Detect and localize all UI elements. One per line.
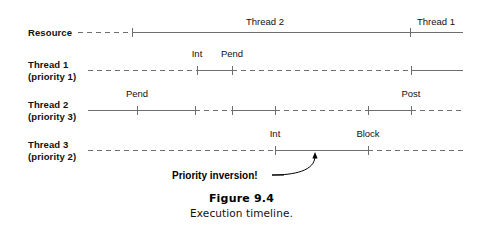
event-label-thread-3-int: Int <box>270 128 281 139</box>
row-label-priority: (priority 2) <box>28 151 76 163</box>
figure-caption: Figure 9.4 Execution timeline. <box>0 192 483 220</box>
row-label-thread-2: Thread 2(priority 3) <box>28 99 76 122</box>
segment-label-resource-0: Thread 2 <box>246 16 284 27</box>
row-label-name: Thread 3 <box>28 139 68 150</box>
timeline-row-thread-2 <box>88 106 463 115</box>
row-label-name: Thread 2 <box>28 99 68 110</box>
timeline-row-thread-3 <box>88 146 463 155</box>
execution-timeline-figure: ResourceThread 2Thread 1Thread 1(priorit… <box>0 0 483 226</box>
figure-caption-subtitle: Execution timeline. <box>0 206 483 220</box>
timeline-row-thread-1 <box>88 66 463 75</box>
row-label-thread-3: Thread 3(priority 2) <box>28 139 76 162</box>
row-label-resource: Resource <box>28 27 72 39</box>
row-label-priority: (priority 3) <box>28 111 76 123</box>
event-label-thread-1-pend: Pend <box>221 48 243 59</box>
segment-label-resource-1: Thread 1 <box>417 16 455 27</box>
row-label-name: Thread 1 <box>28 59 68 70</box>
row-label-name: Resource <box>28 27 72 38</box>
figure-caption-title: Figure 9.4 <box>0 192 483 206</box>
priority-inversion-label: Priority inversion! <box>172 170 258 182</box>
row-label-priority: (priority 1) <box>28 71 76 83</box>
timeline-row-resource <box>78 28 463 37</box>
event-label-thread-3-block: Block <box>356 128 379 139</box>
annotation-arrowhead-icon <box>312 152 317 159</box>
event-label-thread-2-pend: Pend <box>126 88 148 99</box>
event-label-thread-2-post: Post <box>401 88 420 99</box>
annotation-leader-line <box>272 156 315 175</box>
row-label-thread-1: Thread 1(priority 1) <box>28 59 76 82</box>
event-label-thread-1-int: Int <box>192 48 203 59</box>
priority-inversion-annotation <box>272 152 318 175</box>
